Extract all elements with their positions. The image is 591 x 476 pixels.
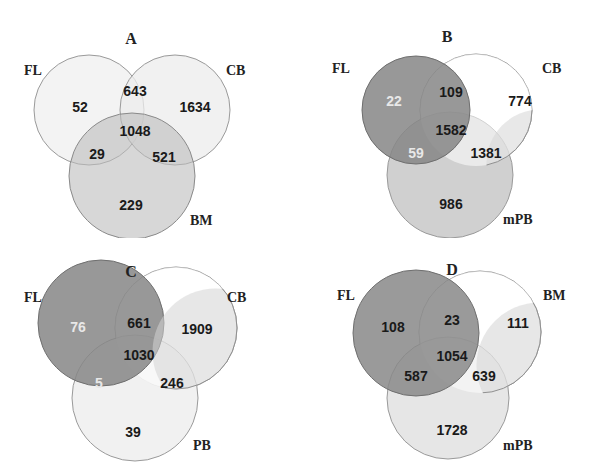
region-b: 1728: [436, 422, 467, 438]
region-tl-tr: 109: [439, 84, 463, 100]
venn-diagram-a: A FL CB BM 52 1634 643 1048 29 521 229: [0, 0, 295, 238]
panel-title: B: [442, 28, 453, 45]
panel-title: C: [125, 263, 137, 280]
region-tl: 22: [386, 93, 402, 109]
region-tr: 1634: [179, 99, 210, 115]
venn-diagram-d: D FL BM mPB 108 111 23 1054 587 639 1728: [295, 238, 590, 476]
region-tl-tr: 661: [127, 315, 151, 331]
panel-title: D: [446, 261, 458, 278]
set-label-bottom: BM: [190, 213, 213, 228]
region-b: 229: [119, 197, 143, 213]
set-label-top-right: CB: [227, 290, 246, 305]
set-label-top-right: CB: [542, 61, 561, 76]
region-center: 1030: [123, 347, 154, 363]
venn-diagram-c: C FL CB PB 76 1909 661 1030 5 246 39: [0, 238, 295, 476]
region-tl-tr: 643: [123, 83, 147, 99]
set-label-bottom: mPB: [503, 438, 533, 453]
region-tl: 108: [381, 319, 405, 335]
set-label-bottom: PB: [193, 438, 211, 453]
region-center: 1048: [119, 123, 150, 139]
region-center: 1582: [435, 122, 466, 138]
set-label-top-left: FL: [337, 288, 355, 303]
set-label-top-left: FL: [332, 61, 350, 76]
venn-panel-a: A FL CB BM 52 1634 643 1048 29 521 229: [0, 0, 295, 238]
set-label-top-right: CB: [226, 63, 245, 78]
region-tr: 111: [507, 315, 529, 331]
region-tl: 52: [72, 99, 88, 115]
region-tr: 1909: [181, 321, 212, 337]
region-tl-b: 5: [95, 375, 103, 391]
region-tl-b: 587: [404, 368, 428, 384]
set-label-top-right: BM: [543, 288, 566, 303]
panel-title: A: [125, 30, 137, 47]
venn-panel-b: B FL CB mPB 22 774 109 1582 59 1381 986: [295, 0, 590, 238]
set-label-bottom: mPB: [503, 212, 533, 227]
set-label-top-left: FL: [24, 290, 42, 305]
region-tl-b: 29: [89, 146, 105, 162]
region-tr: 774: [508, 93, 532, 109]
region-tl-tr: 23: [444, 312, 460, 328]
region-tr-b: 246: [160, 375, 184, 391]
region-center: 1054: [436, 348, 467, 364]
venn-panel-d: D FL BM mPB 108 111 23 1054 587 639 1728: [295, 238, 590, 476]
region-tr-b: 1381: [470, 145, 501, 161]
region-tl-b: 59: [408, 145, 424, 161]
region-tl: 76: [70, 319, 86, 335]
region-b: 986: [439, 196, 463, 212]
region-tr-b: 521: [152, 149, 176, 165]
venn-panel-c: C FL CB PB 76 1909 661 1030 5 246 39: [0, 238, 295, 476]
region-tr-b: 639: [472, 368, 496, 384]
set-label-top-left: FL: [24, 63, 42, 78]
venn-diagram-b: B FL CB mPB 22 774 109 1582 59 1381 986: [295, 0, 590, 238]
region-b: 39: [125, 424, 141, 440]
